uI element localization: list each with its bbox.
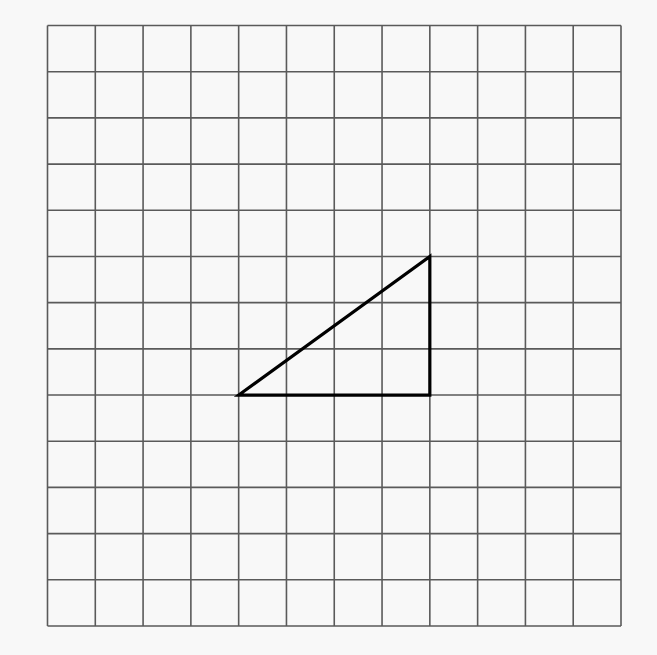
- grid-diagram: [0, 0, 657, 655]
